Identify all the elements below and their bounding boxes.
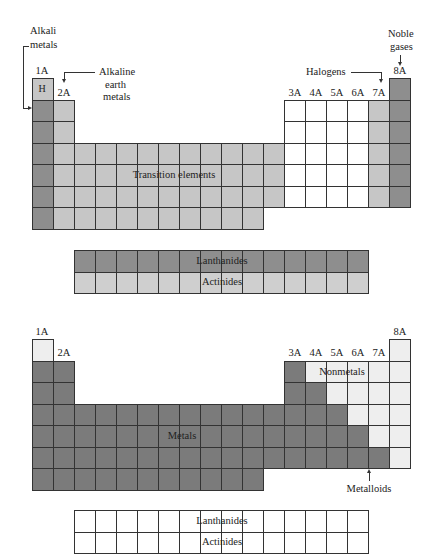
element-cell <box>53 121 75 144</box>
element-cell <box>284 186 306 209</box>
element-cell <box>116 186 138 209</box>
element-cell <box>137 207 159 230</box>
element-cell <box>284 164 306 187</box>
metals-label: Metals <box>168 430 197 442</box>
actinide-cell <box>284 532 306 555</box>
element-cell <box>389 425 411 448</box>
nonmetals-label: Nonmetals <box>319 366 365 378</box>
group-label-4a: 4A <box>310 87 323 99</box>
element-cell <box>53 468 75 491</box>
actinide-cell <box>242 272 264 295</box>
actinide-cell <box>347 272 369 295</box>
element-cell <box>179 143 201 166</box>
actinide-cell <box>95 272 117 295</box>
lanthanide-cell <box>326 510 348 533</box>
element-cell <box>74 143 96 166</box>
alkaline-arrow-icon <box>62 79 66 83</box>
element-cell <box>284 404 306 427</box>
element-cell <box>95 207 117 230</box>
element-cell <box>242 404 264 427</box>
element-cell <box>200 447 222 470</box>
actinide-cell <box>74 272 96 295</box>
group-label-7a-bottom: 7A <box>373 347 386 359</box>
element-cell <box>95 404 117 427</box>
element-cell <box>368 361 390 384</box>
element-cell <box>74 447 96 470</box>
element-cell <box>137 143 159 166</box>
lanthanide-cell <box>263 510 285 533</box>
element-cell <box>305 164 327 187</box>
element-cell <box>368 404 390 427</box>
actinide-cell <box>179 532 201 555</box>
lanthanide-cell <box>305 510 327 533</box>
element-cell <box>347 404 369 427</box>
element-cell <box>95 447 117 470</box>
metalloids-arrow-icon <box>367 469 371 473</box>
element-cell <box>368 121 390 144</box>
element-cell <box>74 468 96 491</box>
element-cell <box>284 121 306 144</box>
actinide-cell <box>347 532 369 555</box>
element-cell <box>53 382 75 405</box>
element-cell <box>242 207 264 230</box>
element-cell <box>347 121 369 144</box>
lanthanide-cell <box>284 250 306 273</box>
actinide-cell <box>305 272 327 295</box>
group-label-8a: 8A <box>394 65 407 77</box>
halogens-label: Halogens <box>306 66 346 78</box>
actinide-cell <box>305 532 327 555</box>
element-cell <box>158 143 180 166</box>
element-cell <box>221 207 243 230</box>
lanthanide-cell <box>347 510 369 533</box>
element-cell <box>368 425 390 448</box>
element-cell <box>74 425 96 448</box>
lanthanide-cell <box>116 250 138 273</box>
element-cell <box>389 447 411 470</box>
element-cell <box>326 164 348 187</box>
element-cell <box>137 447 159 470</box>
lanthanide-cell <box>137 510 159 533</box>
element-cell <box>74 186 96 209</box>
element-cell <box>389 382 411 405</box>
element-cell <box>53 207 75 230</box>
element-cell <box>242 425 264 448</box>
element-cell <box>347 164 369 187</box>
lanthanide-cell <box>263 250 285 273</box>
element-cell <box>32 207 54 230</box>
element-cell <box>305 404 327 427</box>
element-cell <box>53 447 75 470</box>
element-cell <box>74 164 96 187</box>
actinide-cell <box>242 532 264 555</box>
lanthanide-cell <box>95 250 117 273</box>
element-cell <box>305 143 327 166</box>
element-cell <box>221 447 243 470</box>
element-cell <box>347 100 369 123</box>
transition-elements-label: Transition elements <box>133 169 216 181</box>
metalloids-line <box>369 472 370 481</box>
element-cell <box>32 361 54 384</box>
element-cell <box>200 468 222 491</box>
alkali-metals-label-line1: Alkali <box>30 25 56 37</box>
element-cell <box>200 143 222 166</box>
element-cell <box>263 143 285 166</box>
element-cell <box>368 100 390 123</box>
element-cell <box>53 425 75 448</box>
halogens-line-horizontal <box>351 72 381 73</box>
element-cell <box>158 404 180 427</box>
element-cell <box>116 447 138 470</box>
metalloids-label: Metalloids <box>347 483 392 495</box>
element-cell <box>263 404 285 427</box>
actinide-cell <box>284 272 306 295</box>
group-label-6a: 6A <box>352 87 365 99</box>
element-cell <box>326 447 348 470</box>
actinide-cell <box>158 272 180 295</box>
element-cell <box>95 186 117 209</box>
group-label-3a: 3A <box>289 87 302 99</box>
element-cell <box>179 207 201 230</box>
element-cell <box>368 186 390 209</box>
group-label-4a-bottom: 4A <box>310 347 323 359</box>
element-cell <box>263 425 285 448</box>
group-label-7a: 7A <box>373 87 386 99</box>
element-cell <box>305 382 327 405</box>
alkaline-earth-label-line3: metals <box>103 91 130 103</box>
